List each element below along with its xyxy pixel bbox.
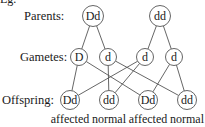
gamete-node: d (100, 49, 117, 66)
row-label-offspring: Offspring: (2, 93, 54, 107)
offspring-node: Dd (139, 91, 158, 110)
offspring-node: dd (178, 91, 197, 110)
row-label-parents: Parents: (24, 9, 64, 23)
genetic-cross-diagram: Eg. DdddDdddDdddDddd Parents: Gametes: O… (0, 0, 205, 127)
svg-text:d: d (171, 50, 177, 64)
svg-text:dd: dd (181, 93, 193, 107)
svg-text:dd: dd (103, 93, 115, 107)
gamete-node: D (71, 49, 88, 66)
phenotype-label: affected (51, 113, 89, 126)
phenotype-label: affected (129, 113, 167, 126)
phenotype-label: normal (92, 113, 126, 126)
svg-text:d: d (105, 50, 111, 64)
svg-text:dd: dd (154, 9, 166, 23)
parent-node: Dd (83, 6, 104, 27)
svg-text:d: d (142, 50, 148, 64)
svg-text:Dd: Dd (141, 93, 156, 107)
connector-line (97, 26, 105, 49)
row-label-gametes: Gametes: (20, 50, 67, 64)
gamete-node: d (137, 49, 154, 66)
svg-text:Dd: Dd (63, 93, 78, 107)
offspring-node: dd (100, 91, 119, 110)
parent-node: dd (150, 6, 171, 27)
phenotype-label: normal (170, 113, 204, 126)
connector-line (72, 65, 77, 90)
connector-line (86, 61, 140, 94)
connector-line (153, 64, 170, 92)
svg-text:Dd: Dd (86, 9, 101, 23)
connector-line (148, 26, 156, 49)
svg-text:D: D (75, 50, 84, 64)
connector-line (176, 65, 184, 91)
connector-line (82, 26, 90, 49)
gamete-node: d (166, 49, 183, 66)
offspring-node: Dd (61, 91, 80, 110)
connector-line (163, 26, 171, 49)
